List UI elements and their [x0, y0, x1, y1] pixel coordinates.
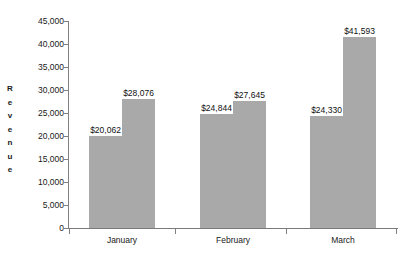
bar-value-label: $41,593	[343, 26, 376, 36]
bar	[122, 99, 155, 228]
y-axis-title-letter: e	[3, 163, 17, 177]
y-axis-tick-label: 0	[18, 223, 64, 233]
y-axis-tick-label: 40,000	[18, 39, 64, 49]
bar-value-label: $20,062	[89, 125, 122, 135]
y-axis-title-letter: n	[3, 136, 17, 150]
x-axis-category-label: January	[107, 235, 137, 245]
x-axis-line	[68, 228, 398, 229]
y-axis-tick-label: 25,000	[18, 108, 64, 118]
bar-value-label: $24,330	[310, 105, 343, 115]
revenue-bar-chart: Revenue 05,00010,00015,00020,00025,00030…	[0, 0, 408, 256]
y-axis-tick-label: 15,000	[18, 154, 64, 164]
bar-value-label: $28,076	[122, 88, 155, 98]
bar-value-label: $24,844	[200, 103, 233, 113]
x-axis-category-label: February	[216, 235, 250, 245]
bar-value-label: $27,645	[233, 90, 266, 100]
y-axis-tick-label: 5,000	[18, 200, 64, 210]
x-axis-category-label: March	[331, 235, 355, 245]
bar	[310, 116, 343, 228]
plot-area: $20,062$28,076$24,844$27,645$24,330$41,5…	[69, 21, 398, 228]
x-axis-tick-mark	[286, 229, 287, 234]
y-axis-tick-label: 35,000	[18, 62, 64, 72]
y-axis-title-letter: R	[3, 82, 17, 96]
bar	[200, 114, 233, 228]
bar	[343, 37, 376, 228]
y-axis-title-letter: v	[3, 109, 17, 123]
y-axis-title-letter: e	[3, 123, 17, 137]
bar	[89, 136, 122, 228]
y-axis-title-letter: e	[3, 96, 17, 110]
x-axis-tick-mark	[69, 229, 70, 234]
x-axis-tick-mark	[175, 229, 176, 234]
y-axis-title-letter: u	[3, 150, 17, 164]
y-axis-tick-label: 45,000	[18, 16, 64, 26]
y-axis-tick-label: 10,000	[18, 177, 64, 187]
x-axis-tick-mark	[396, 229, 397, 234]
bar	[233, 101, 266, 228]
y-axis-tick-label: 30,000	[18, 85, 64, 95]
y-axis-tick-labels: 05,00010,00015,00020,00025,00030,00035,0…	[18, 0, 64, 256]
y-axis-title: Revenue	[3, 82, 17, 177]
y-axis-tick-label: 20,000	[18, 131, 64, 141]
